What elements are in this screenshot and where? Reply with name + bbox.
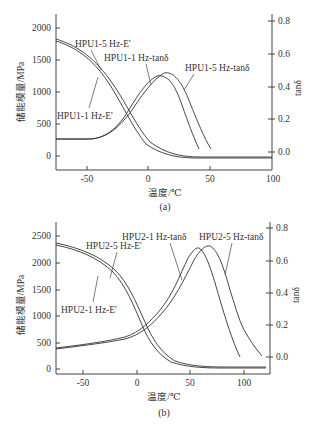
- y2-axis-title: tanδ: [293, 79, 303, 96]
- y-tick-label: 500: [37, 338, 52, 348]
- annotation-hpu1-1hz-e: HPU1-1 Hz-E': [57, 111, 113, 121]
- annotation-hpu1-5hz-tand: HPU1-5 Hz-tanδ: [185, 63, 250, 73]
- chart-b-caption: (b): [158, 407, 170, 419]
- annotation-hpu2-5hz-tand: HPU2-5 Hz-tanδ: [199, 232, 264, 242]
- x-tick-label: 0: [135, 378, 140, 388]
- annotation-hpu1-5hz-e: HPU1-5 Hz-E': [75, 39, 131, 49]
- chart-a-x-ticks: -50 0 50 100: [81, 166, 281, 184]
- series-hpu2-1hz-tand: [56, 248, 240, 357]
- y2-tick-label: 0.2: [278, 114, 290, 124]
- chart-a-caption: (a): [159, 201, 170, 213]
- annotation-hpu2-1hz-tand: HPU2-1 Hz-tanδ: [122, 232, 187, 242]
- y2-tick-label: 0.0: [278, 147, 290, 157]
- y-tick-label: 500: [37, 119, 52, 129]
- x-tick-label: 100: [237, 378, 252, 388]
- y-tick-label: 1500: [32, 285, 51, 295]
- y2-tick-label: 0.4: [276, 288, 288, 298]
- chart-a: 0 500 1000 1500 2000 0.0 0.2 0.4 0.6 0.8…: [15, 14, 303, 213]
- series-hpu2-5hz-tand: [56, 246, 262, 356]
- annotation-hpu2-5hz-e: HPU2-5 Hz-E': [86, 241, 142, 251]
- y-tick-label: 2000: [32, 258, 51, 268]
- y-tick-label: 0: [46, 151, 51, 161]
- y2-tick-label: 0.6: [278, 49, 290, 59]
- annotation-hpu1-1hz-tand: HPU1-1 Hz-tanδ: [104, 53, 169, 63]
- chart-a-y2-ticks: 0.0 0.2 0.4 0.6 0.8: [268, 16, 290, 157]
- y2-tick-label: 0.8: [278, 16, 290, 26]
- y2-tick-label: 0.2: [276, 320, 288, 330]
- y-tick-label: 2000: [32, 23, 51, 33]
- y-tick-label: 1500: [32, 55, 51, 65]
- y2-tick-label: 0.6: [276, 256, 288, 266]
- chart-a-axes: [56, 14, 272, 170]
- y-tick-label: 1000: [32, 311, 51, 321]
- chart-b: 0 500 1000 1500 2000 2500 0.0 0.2 0.4 0.…: [15, 222, 301, 419]
- x-axis-title: 温度/℃: [147, 391, 181, 402]
- y2-tick-label: 0.4: [278, 82, 290, 92]
- y2-tick-label: 0.8: [276, 223, 288, 233]
- y-tick-label: 2500: [32, 231, 51, 241]
- y-tick-label: 1000: [32, 87, 51, 97]
- y-axis-title: 储能模量/MPa: [15, 274, 26, 335]
- x-tick-label: -50: [81, 174, 94, 184]
- x-tick-label: 0: [146, 174, 151, 184]
- y-tick-label: 0: [46, 364, 51, 374]
- y2-axis-title: tanδ: [291, 286, 301, 303]
- x-tick-label: 50: [205, 174, 215, 184]
- chart-b-y2-ticks: 0.0 0.2 0.4 0.6 0.8: [266, 223, 288, 362]
- figure: 0 500 1000 1500 2000 0.0 0.2 0.4 0.6 0.8…: [0, 0, 319, 428]
- annotation-hpu2-1hz-e: HPU2-1 Hz-E': [61, 305, 117, 315]
- chart-b-x-ticks: -50 0 50 100: [77, 370, 252, 388]
- x-axis-title: 温度/℃: [148, 187, 182, 198]
- x-tick-label: 50: [185, 378, 195, 388]
- y2-tick-label: 0.0: [276, 352, 288, 362]
- x-tick-label: 100: [266, 174, 281, 184]
- y-axis-title: 储能模量/MPa: [15, 61, 26, 122]
- x-tick-label: -50: [77, 378, 90, 388]
